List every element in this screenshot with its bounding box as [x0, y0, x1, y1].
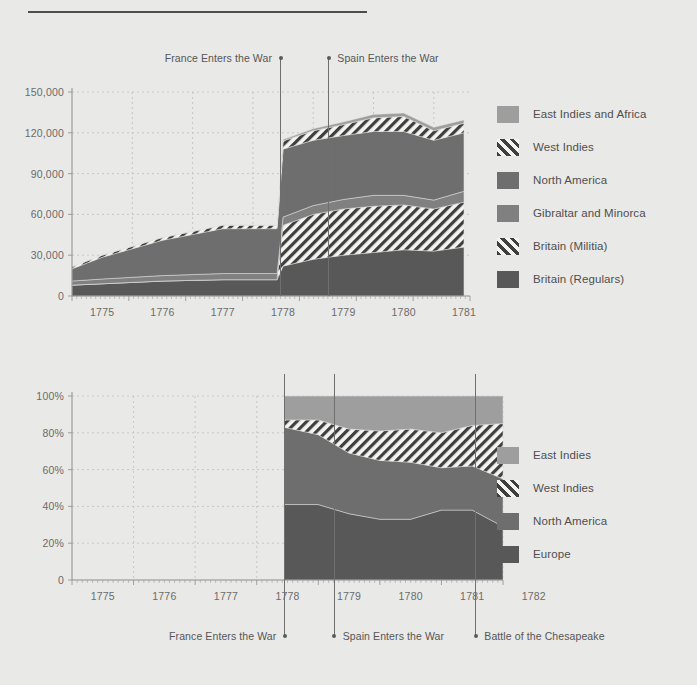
annotation-line [475, 374, 476, 636]
legend-item[interactable]: East Indies [497, 446, 591, 464]
top-x-tick-label: 1780 [392, 306, 416, 318]
legend-item[interactable]: Europe [497, 545, 571, 563]
legend-swatch-icon [497, 172, 519, 189]
top-chart-legend: East Indies and AfricaWest IndiesNorth A… [497, 105, 697, 300]
legend-item[interactable]: West Indies [497, 479, 594, 497]
bottom-chart-legend: East IndiesWest IndiesNorth AmericaEurop… [497, 446, 697, 576]
bottom-y-tick-label: 40% [42, 500, 64, 512]
bottom-y-tick-label: 0 [58, 574, 64, 586]
legend-swatch-icon [497, 546, 519, 563]
top-x-tick-label: 1776 [150, 306, 174, 318]
annotation-marker [474, 634, 478, 638]
bottom-y-tick-label: 100% [36, 390, 64, 402]
top-x-tick-label: 1778 [271, 306, 295, 318]
top-y-tick-label: 60,000 [31, 208, 64, 220]
bottom-x-tick-label: 1777 [214, 590, 238, 602]
annotation-label: France Enters the War [169, 630, 276, 642]
bottom-x-tick-label: 1780 [399, 590, 423, 602]
annotation-line [334, 374, 335, 636]
legend-item-label: West Indies [533, 482, 594, 494]
legend-item-label: North America [533, 174, 607, 186]
legend-item-label: Britain (Militia) [533, 240, 608, 252]
top-x-tick-label: 1781 [452, 306, 476, 318]
chart-page: 030,00060,00090,000120,000150,000 177517… [0, 0, 697, 685]
bottom-x-tick-label: 1776 [152, 590, 176, 602]
legend-item-label: Britain (Regulars) [533, 273, 624, 285]
legend-swatch-icon [497, 238, 519, 255]
annotation-marker [332, 634, 336, 638]
legend-swatch-icon [497, 271, 519, 288]
annotation-line [284, 374, 285, 636]
annotation-line [280, 58, 281, 296]
bottom-x-tick-label: 1779 [337, 590, 361, 602]
legend-item[interactable]: Britain (Militia) [497, 237, 608, 255]
top-y-tick-label: 30,000 [31, 249, 64, 261]
bottom-y-tick-label: 20% [42, 537, 64, 549]
top-y-tick-label: 150,000 [25, 86, 64, 98]
bottom-x-tick-label: 1775 [91, 590, 115, 602]
legend-item-label: North America [533, 515, 607, 527]
legend-swatch-icon [497, 139, 519, 156]
annotation-line [328, 58, 329, 296]
annotation-label: Battle of the Chesapeake [484, 630, 604, 642]
legend-item-label: Europe [533, 548, 571, 560]
bottom-x-tick-label: 1782 [522, 590, 546, 602]
bottom-chart-canvas [0, 330, 530, 630]
legend-item[interactable]: North America [497, 171, 607, 189]
annotation-marker [283, 634, 287, 638]
bottom-x-tick-label: 1781 [460, 590, 484, 602]
top-x-tick-label: 1775 [90, 306, 114, 318]
legend-item-label: West Indies [533, 141, 594, 153]
legend-item[interactable]: Gibraltar and Minorca [497, 204, 646, 222]
legend-swatch-icon [497, 205, 519, 222]
legend-swatch-icon [497, 447, 519, 464]
legend-item[interactable]: East Indies and Africa [497, 105, 646, 123]
top-x-tick-label: 1777 [211, 306, 235, 318]
legend-swatch-icon [497, 513, 519, 530]
legend-item-label: East Indies [533, 449, 591, 461]
top-x-tick-label: 1779 [331, 306, 355, 318]
annotation-label: France Enters the War [165, 52, 272, 64]
bottom-x-tick-label: 1778 [275, 590, 299, 602]
legend-item[interactable]: North America [497, 512, 607, 530]
legend-item-label: East Indies and Africa [533, 108, 646, 120]
top-chart-canvas [0, 0, 500, 330]
top-y-tick-label: 120,000 [25, 127, 64, 139]
legend-item[interactable]: Britain (Regulars) [497, 270, 624, 288]
top-y-tick-label: 0 [58, 290, 64, 302]
annotation-label: Spain Enters the War [343, 630, 444, 642]
annotation-marker [279, 56, 283, 60]
bottom-y-tick-label: 60% [42, 464, 64, 476]
bottom-y-tick-label: 80% [42, 427, 64, 439]
bottom-area-chart: 020%40%60%80%100% 1775177617771778177917… [0, 330, 530, 630]
legend-swatch-icon [497, 106, 519, 123]
legend-swatch-icon [497, 480, 519, 497]
annotation-marker [327, 56, 331, 60]
legend-item[interactable]: West Indies [497, 138, 594, 156]
legend-item-label: Gibraltar and Minorca [533, 207, 646, 219]
top-area-chart: 030,00060,00090,000120,000150,000 177517… [0, 0, 500, 330]
annotation-label: Spain Enters the War [337, 52, 438, 64]
top-y-tick-label: 90,000 [31, 168, 64, 180]
